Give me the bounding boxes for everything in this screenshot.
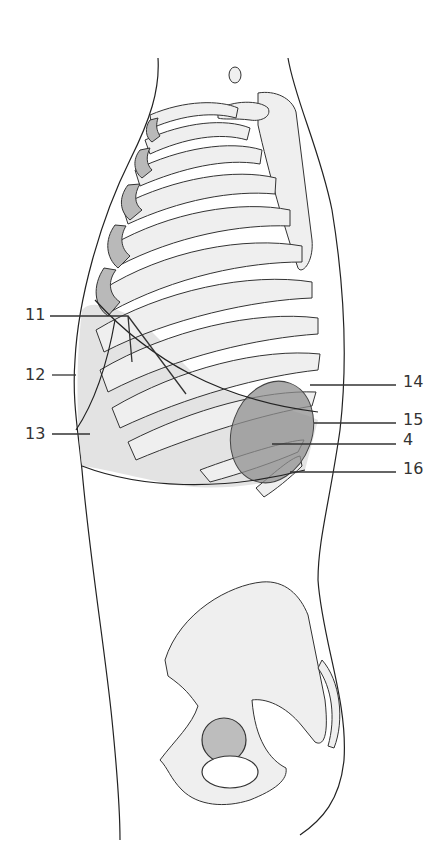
obturator-foramen xyxy=(202,756,258,788)
label-12: 12 xyxy=(25,367,45,383)
label-15: 15 xyxy=(403,412,423,428)
label-14: 14 xyxy=(403,374,423,390)
label-16: 16 xyxy=(403,461,423,477)
acromion xyxy=(229,67,241,83)
anatomy-illustration xyxy=(0,0,447,860)
acetabulum xyxy=(202,718,246,762)
label-4: 4 xyxy=(403,432,413,448)
label-11: 11 xyxy=(25,307,45,323)
label-13: 13 xyxy=(25,426,45,442)
